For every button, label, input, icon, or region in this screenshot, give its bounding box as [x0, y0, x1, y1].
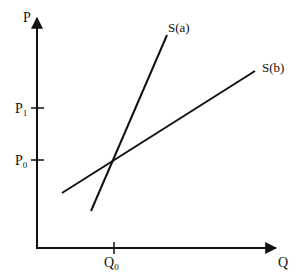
- p1-label: P1: [15, 101, 27, 118]
- supply-diagram: P Q P1 P0 Q0 S(a) S(b): [0, 0, 304, 279]
- supply-curve-b: [62, 71, 255, 193]
- supply-curve-b-label: S(b): [262, 60, 284, 75]
- y-axis-label: P: [23, 10, 31, 25]
- x-axis-label: Q: [278, 255, 288, 270]
- supply-curve-a-label: S(a): [168, 20, 190, 35]
- supply-curve-a: [91, 35, 167, 211]
- q0-label: Q0: [104, 255, 119, 272]
- p0-label: P0: [15, 153, 28, 170]
